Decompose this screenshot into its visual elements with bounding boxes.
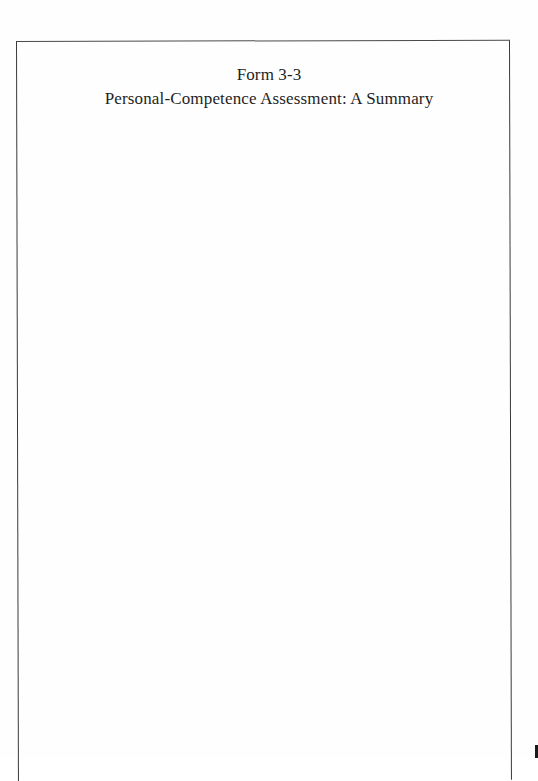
form-number-heading: Form 3-3 [0, 65, 538, 85]
form-title-heading: Personal-Competence Assessment: A Summar… [0, 89, 538, 109]
form-body-blank-area [20, 120, 508, 758]
